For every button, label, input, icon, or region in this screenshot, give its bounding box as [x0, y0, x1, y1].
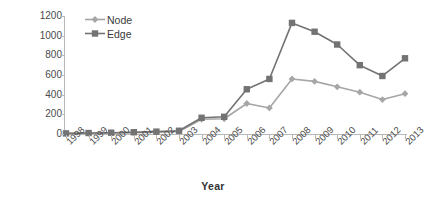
y-axis-tick-mark: [60, 36, 64, 37]
data-point-marker: [334, 41, 340, 47]
y-axis-tick-label: 1000: [28, 31, 62, 41]
y-axis-tick-label: 200: [28, 109, 62, 119]
legend-entry-node: Node: [84, 13, 132, 26]
data-point-marker: [357, 62, 363, 68]
data-point-marker: [356, 89, 363, 96]
data-point-marker: [379, 96, 386, 103]
legend-entry-edge: Edge: [84, 27, 132, 40]
y-axis-tick-mark: [60, 55, 64, 56]
line-chart: Thousands 020040060080010001200 Node Edg…: [0, 0, 426, 199]
data-point-marker: [402, 90, 409, 97]
data-point-marker: [266, 76, 272, 82]
y-axis-tick-label: 1200: [28, 11, 62, 21]
legend-label-node: Node: [107, 14, 132, 26]
y-axis-tick-mark: [60, 114, 64, 115]
legend-marker-node: [84, 14, 106, 25]
y-axis-tick-label: 600: [28, 70, 62, 80]
y-axis-tick-label: 0: [28, 129, 62, 139]
x-axis-title: Year: [0, 180, 426, 192]
y-axis-tick-label: 400: [28, 90, 62, 100]
data-point-marker: [289, 20, 295, 26]
data-point-marker: [334, 83, 341, 90]
y-axis-tick-mark: [60, 16, 64, 17]
y-axis-tick-mark: [60, 95, 64, 96]
chart-legend: Node Edge: [84, 13, 132, 41]
y-axis-tick-label: 800: [28, 50, 62, 60]
data-point-marker: [379, 73, 385, 79]
data-point-marker: [244, 86, 250, 92]
y-axis-tick-mark: [60, 75, 64, 76]
legend-marker-edge: [84, 28, 106, 39]
data-point-marker: [402, 55, 408, 61]
y-axis-tick-labels: 020040060080010001200: [26, 0, 62, 199]
data-point-marker: [198, 115, 204, 121]
data-point-marker: [221, 114, 227, 120]
data-point-marker: [311, 78, 318, 85]
data-point-marker: [311, 29, 317, 35]
y-axis-tick-mark: [60, 134, 64, 135]
legend-label-edge: Edge: [107, 28, 132, 40]
x-axis-tick-label: 2013: [403, 124, 426, 147]
